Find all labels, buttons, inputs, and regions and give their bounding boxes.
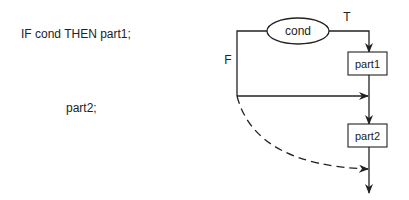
condition-label: cond: [285, 24, 311, 38]
part2-node: part2: [348, 124, 387, 147]
false-label: F: [224, 53, 231, 67]
true-edge: [329, 31, 369, 52]
part1-node: part1: [348, 52, 387, 75]
part2-label: part2: [355, 130, 380, 142]
false-edge: [237, 31, 267, 96]
part1-label: part1: [355, 58, 380, 70]
flowchart: cond T F part1 part2: [0, 0, 409, 200]
true-label: T: [343, 10, 351, 24]
condition-node: cond: [267, 18, 329, 44]
